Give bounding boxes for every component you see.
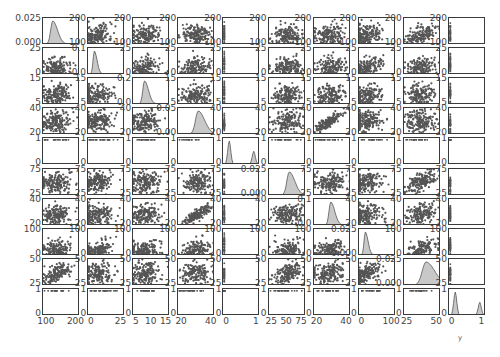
y-tick-label: 0.025 bbox=[241, 165, 267, 174]
x-tick-label: 0 bbox=[223, 317, 229, 326]
scatter-panel-3-4 bbox=[222, 107, 259, 134]
scatter-panel-1-3 bbox=[177, 47, 214, 74]
scatter-panel-8-5 bbox=[268, 258, 305, 285]
y-tick-label: 25 bbox=[255, 44, 266, 53]
y-tick-label: 15 bbox=[390, 74, 401, 83]
y-tick-label: 75 bbox=[390, 165, 401, 174]
y-tick-label: 1 bbox=[125, 134, 131, 143]
y-tick-label: 15 bbox=[345, 74, 356, 83]
y-tick-label: 75 bbox=[120, 165, 131, 174]
x-tick-label: 40 bbox=[205, 317, 216, 326]
y-tick-label: 25 bbox=[165, 44, 176, 53]
y-tick-label: 1 bbox=[351, 285, 357, 294]
y-tick-label: 1 bbox=[441, 285, 447, 294]
y-tick-label: 40 bbox=[300, 104, 311, 113]
scatter-panel-0-9 bbox=[448, 17, 485, 44]
y-tick-label: 100 bbox=[159, 225, 176, 234]
scatter-panel-9-8 bbox=[403, 288, 440, 315]
scatter-panel-8-6 bbox=[313, 258, 350, 285]
scatter-panel-9-5 bbox=[268, 288, 305, 315]
y-tick-label: 15 bbox=[255, 74, 266, 83]
y-tick-label: 50 bbox=[30, 255, 41, 264]
y-tick-label: 15 bbox=[210, 74, 221, 83]
y-tick-label: 40 bbox=[30, 104, 41, 113]
scatter-panel-2-4 bbox=[222, 77, 259, 104]
y-tick-label: 100 bbox=[114, 225, 131, 234]
scatter-panel-2-7 bbox=[358, 77, 395, 104]
y-tick-label: 50 bbox=[345, 255, 356, 264]
scatter-panel-9-1 bbox=[87, 288, 124, 315]
scatter-panel-5-8 bbox=[403, 168, 440, 195]
y-tick-label: 75 bbox=[30, 165, 41, 174]
scatter-panel-6-3 bbox=[177, 198, 214, 225]
y-tick-label: 1 bbox=[351, 134, 357, 143]
y-tick-label: 25 bbox=[390, 44, 401, 53]
x-tick-label: 50 bbox=[280, 317, 291, 326]
y-tick-label: 1 bbox=[80, 134, 86, 143]
kde-panel-3 bbox=[177, 107, 214, 134]
scatter-panel-3-5 bbox=[268, 107, 305, 134]
y-tick-label: 0.025 bbox=[331, 225, 357, 234]
y-tick-label: 1 bbox=[35, 285, 41, 294]
y-tick-label: 1 bbox=[441, 134, 447, 143]
y-tick-label: 75 bbox=[165, 165, 176, 174]
scatter-panel-4-5 bbox=[268, 137, 305, 164]
y-tick-label: 0.025 bbox=[15, 14, 41, 23]
y-tick-label: 200 bbox=[430, 14, 447, 23]
scatter-panel-6-9 bbox=[448, 198, 485, 225]
scatter-panel-2-0 bbox=[42, 77, 79, 104]
x-tick-label: 1 bbox=[253, 317, 259, 326]
y-tick-label: 40 bbox=[210, 195, 221, 204]
x-axis-label-y: y bbox=[458, 334, 462, 342]
scatter-panel-9-0 bbox=[42, 288, 79, 315]
scatter-panel-3-9 bbox=[448, 107, 485, 134]
scatter-panel-4-6 bbox=[313, 137, 350, 164]
scatter-panel-2-3 bbox=[177, 77, 214, 104]
scatter-panel-3-6 bbox=[313, 107, 350, 134]
scatter-panel-5-2 bbox=[132, 168, 169, 195]
kde-panel-1 bbox=[87, 47, 124, 74]
scatter-panel-8-2 bbox=[132, 258, 169, 285]
x-tick-label: 75 bbox=[295, 317, 306, 326]
y-tick-label: 15 bbox=[435, 74, 446, 83]
y-tick-label: 0.05 bbox=[156, 104, 176, 113]
y-tick-label: 75 bbox=[300, 165, 311, 174]
scatter-panel-9-4 bbox=[222, 288, 259, 315]
y-tick-label: 40 bbox=[120, 104, 131, 113]
y-tick-label: 15 bbox=[30, 74, 41, 83]
y-tick-label: 100 bbox=[385, 225, 402, 234]
x-tick-label: 1 bbox=[478, 317, 484, 326]
x-tick-label: 200 bbox=[67, 317, 84, 326]
y-tick-label: 25 bbox=[120, 44, 131, 53]
y-tick-label: 40 bbox=[435, 104, 446, 113]
scatter-panel-1-6 bbox=[313, 47, 350, 74]
y-tick-label: 75 bbox=[75, 165, 86, 174]
y-tick-label: 40 bbox=[210, 104, 221, 113]
kde-panel-5 bbox=[268, 168, 305, 195]
x-tick-label: 10 bbox=[145, 317, 156, 326]
y-tick-label: 40 bbox=[30, 195, 41, 204]
scatter-panel-5-3 bbox=[177, 168, 214, 195]
y-tick-label: 25 bbox=[345, 44, 356, 53]
scatter-panel-3-1 bbox=[87, 107, 124, 134]
x-tick-label: 40 bbox=[340, 317, 351, 326]
y-tick-label: 40 bbox=[435, 195, 446, 204]
y-tick-label: 1 bbox=[171, 134, 177, 143]
kde-panel-9 bbox=[448, 288, 485, 315]
scatter-panel-4-2 bbox=[132, 137, 169, 164]
scatter-panel-1-5 bbox=[268, 47, 305, 74]
scatter-panel-8-4 bbox=[222, 258, 259, 285]
scatter-panel-7-9 bbox=[448, 228, 485, 255]
scatter-panel-9-7 bbox=[358, 288, 395, 315]
y-tick-label: 50 bbox=[165, 255, 176, 264]
scatter-panel-6-4 bbox=[222, 198, 259, 225]
y-tick-label: 1 bbox=[216, 134, 222, 143]
y-tick-label: 15 bbox=[75, 74, 86, 83]
scatter-panel-2-5 bbox=[268, 77, 305, 104]
y-tick-label: 200 bbox=[385, 14, 402, 23]
y-tick-label: 0 bbox=[216, 309, 222, 318]
scatter-panel-8-9 bbox=[448, 258, 485, 285]
scatter-panel-9-3 bbox=[177, 288, 214, 315]
y-tick-label: 100 bbox=[69, 225, 86, 234]
x-tick-label: 100 bbox=[383, 317, 400, 326]
